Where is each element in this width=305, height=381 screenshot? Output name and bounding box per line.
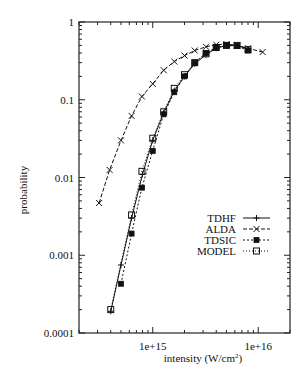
y-tick-label: 0.0001 xyxy=(44,327,74,339)
legend-marker-model xyxy=(254,248,260,254)
legend-marker-tdsic xyxy=(254,238,259,243)
y-tick-label: 0.001 xyxy=(49,249,74,261)
x-tick-label: 1e+16 xyxy=(244,340,272,352)
legend: TDHFALDATDSICMODEL xyxy=(197,212,270,257)
y-tick-label: 0.01 xyxy=(55,172,74,184)
plot-frame xyxy=(79,22,290,333)
series-alda xyxy=(96,41,266,206)
legend-marker-tdhf xyxy=(254,215,260,221)
x-tick-label: 1e+15 xyxy=(139,340,167,352)
y-tick-label: 1 xyxy=(69,16,75,28)
series-layer xyxy=(96,41,266,314)
series-tdhf xyxy=(108,42,251,314)
chart: 10.10.010.0010.0001 1e+151e+16 TDHFALDAT… xyxy=(0,0,305,381)
y-axis-label: probability xyxy=(17,165,29,214)
y-axis-ticks: 10.10.010.0010.0001 xyxy=(44,16,290,339)
x-axis-label: intensity (W/cm2) xyxy=(164,352,243,365)
y-tick-label: 0.1 xyxy=(60,94,74,106)
legend-label-model: MODEL xyxy=(197,245,236,257)
